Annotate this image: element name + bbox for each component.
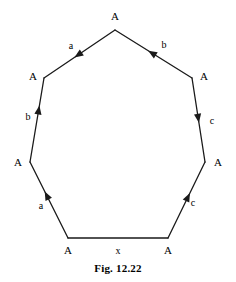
edge-arrowheads-group [34, 49, 201, 202]
vertex-label-v-top: A [111, 11, 119, 22]
edge-label-edge-a-top-left: a [69, 40, 73, 51]
edge-a-left-lower-arrowhead [45, 191, 52, 201]
edge-label-edge-b-left-upper: b [26, 111, 31, 122]
vertex-label-v-upper-left: A [29, 71, 37, 82]
vertex-label-v-mid-left: A [14, 157, 22, 168]
vertex-label-v-bottom-right: A [164, 245, 172, 256]
edge-label-edge-c-right-lower: c [191, 197, 195, 208]
edge-b-left-upper-line [30, 78, 44, 162]
edge-a-left-lower-line [30, 162, 68, 238]
edge-c-right-upper-arrowhead [194, 113, 201, 122]
heptagon-diagram [0, 0, 236, 282]
edge-label-edge-a-left-lower: a [39, 200, 43, 211]
vertex-label-v-bottom-left: A [64, 245, 72, 256]
edge-lines-group [30, 30, 205, 238]
edge-label-edge-b-top-right: b [162, 39, 167, 50]
figure-container: AAAAAAA abbcacx Fig. 12.22 [0, 0, 236, 282]
edge-c-right-lower-arrowhead [183, 193, 190, 203]
edge-label-edge-x-bottom: x [116, 245, 121, 256]
edge-b-top-right-arrowhead [148, 51, 158, 59]
edge-b-left-upper-arrowhead [34, 105, 41, 114]
edge-label-edge-c-right-upper: c [210, 115, 214, 126]
edge-a-top-left-arrowhead [74, 49, 83, 57]
vertex-label-v-upper-right: A [200, 71, 208, 82]
vertex-label-v-mid-right: A [214, 157, 222, 168]
figure-caption: Fig. 12.22 [0, 262, 236, 274]
